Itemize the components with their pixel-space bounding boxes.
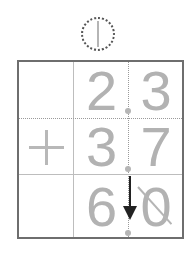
result-decimal-point [125, 230, 131, 236]
row2-decimal-point [125, 166, 131, 172]
carry-digit [83, 19, 113, 49]
column-divider-operator [73, 62, 74, 237]
row1-decimal-point [125, 108, 131, 114]
carry-digit-one [97, 21, 99, 47]
row2-tenths-digit: 7 [130, 120, 182, 174]
row2-ones-digit: 3 [75, 120, 128, 174]
row1-ones-digit: 2 [75, 64, 128, 118]
plus-operator-icon [29, 130, 64, 165]
row1-tenths-digit: 3 [130, 64, 182, 118]
result-ones-digit: 6 [75, 178, 128, 236]
carry-circle [81, 17, 115, 51]
arrow-down-icon [128, 176, 132, 222]
addition-grid: 2 3 3 7 6 0 [17, 60, 184, 239]
